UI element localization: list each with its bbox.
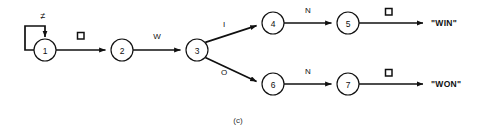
figure-caption: (c): [233, 116, 243, 125]
edge-4-to-5-label: N: [305, 6, 311, 15]
state-diagram-figure: ≠ W I O N: [0, 0, 484, 134]
edge-6-to-7-label: N: [305, 67, 311, 76]
state-node-2[interactable]: 2: [111, 39, 133, 61]
state-node-7[interactable]: 7: [337, 73, 359, 95]
state-label-5: 5: [346, 19, 351, 29]
edge-3-to-6-label: O: [221, 68, 227, 77]
state-node-3[interactable]: 3: [186, 39, 208, 61]
edge-5-to-win: [359, 9, 423, 24]
edge-7-to-won: [359, 70, 423, 85]
state-label-3: 3: [195, 46, 200, 56]
edge-3-to-6: O: [205, 58, 256, 82]
blank-square-icon: [386, 70, 393, 77]
edge-4-to-5: N: [284, 6, 332, 24]
state-node-4[interactable]: 4: [262, 12, 284, 34]
state-node-1[interactable]: 1: [34, 39, 56, 61]
state-label-7: 7: [346, 80, 351, 90]
state-node-5[interactable]: 5: [337, 12, 359, 34]
output-label-win: "WIN": [431, 18, 457, 28]
output-label-won: "WON": [431, 79, 461, 89]
blank-square-icon: [386, 9, 393, 16]
edge-1-self-loop-label: ≠: [41, 11, 46, 21]
state-diagram-canvas: ≠ W I O N: [0, 0, 484, 134]
edge-2-to-3: W: [133, 32, 181, 51]
edge-3-to-4-label: I: [223, 20, 225, 29]
state-label-2: 2: [120, 46, 125, 56]
state-label-4: 4: [271, 19, 276, 29]
state-label-1: 1: [43, 46, 48, 56]
state-label-6: 6: [271, 80, 276, 90]
edge-3-to-4: I: [205, 20, 256, 43]
state-node-6[interactable]: 6: [262, 73, 284, 95]
edge-2-to-3-label: W: [153, 32, 161, 41]
edge-6-to-7: N: [284, 67, 332, 85]
blank-square-icon: [78, 33, 85, 40]
edge-1-to-2: [56, 33, 106, 51]
